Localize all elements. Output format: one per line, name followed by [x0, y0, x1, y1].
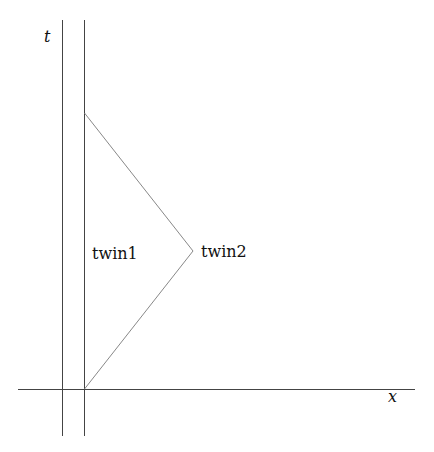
twin2-outbound-worldline	[85, 251, 194, 389]
t-axis-label: t	[44, 27, 51, 46]
spacetime-diagram: t x twin1 twin2	[0, 0, 434, 452]
twin2-label: twin2	[201, 242, 247, 261]
twin2-return-worldline	[85, 113, 194, 251]
x-axis-label: x	[388, 387, 397, 406]
twin1-label: twin1	[92, 244, 138, 263]
